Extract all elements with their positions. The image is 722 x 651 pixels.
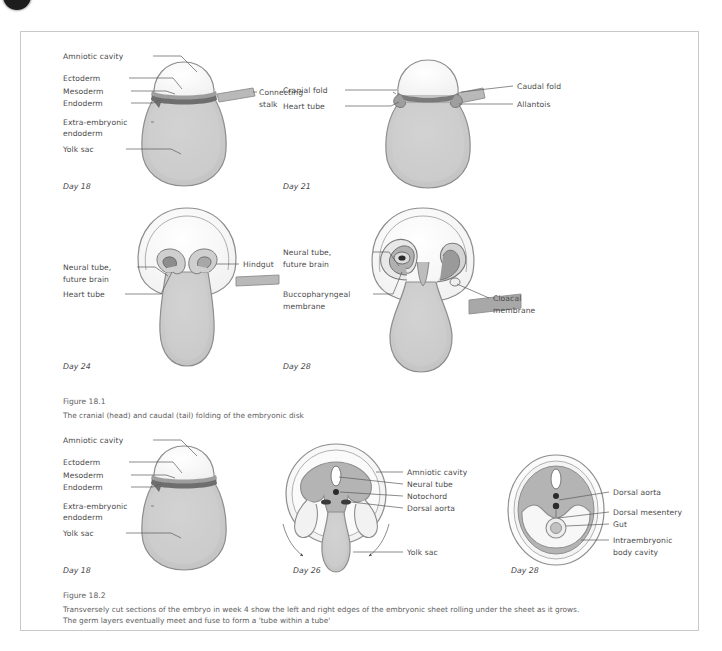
label-dorsal-mesentery-d28t: Dorsal mesentery <box>613 508 683 517</box>
label-heart-tube-d24: Heart tube <box>63 290 105 299</box>
label-extra-embryonic-endoderm2-f2: endoderm <box>63 513 103 522</box>
day-label-day24: Day 24 <box>63 362 91 371</box>
label-neural-tube-line2-d24: future brain <box>63 275 109 284</box>
day-label-day28-sagittal: Day 28 <box>283 362 311 371</box>
caption-title-18-2: Figure 18.2 <box>63 591 106 600</box>
leader-caudal-fold <box>461 86 513 92</box>
caption-line-18-1-1: The cranial (head) and caudal (tail) fol… <box>62 411 304 420</box>
label-neural-tube-line1-d24: Neural tube, <box>63 263 111 272</box>
label-extra-embryonic-endoderm2: endoderm <box>63 129 103 138</box>
label-amniotic-cavity: Amniotic cavity <box>63 52 124 61</box>
gut-lumen-d28t <box>551 523 562 534</box>
day-label-day21: Day 21 <box>283 182 311 191</box>
amniotic-cavity-shape-f2 <box>154 446 214 482</box>
leader-heart-tube-d21 <box>345 102 399 106</box>
neural-tube-lumen-d28 <box>398 255 405 260</box>
caption-line-18-2-2: The germ layers eventually meet and fuse… <box>62 616 330 625</box>
label-allantois: Allantois <box>517 100 550 109</box>
day-label-day28-transverse: Day 28 <box>511 566 539 575</box>
leader-cranial-fold <box>393 92 396 94</box>
label-cloacal-membrane: membrane <box>493 306 536 315</box>
label-notochord-d26: Notochord <box>407 492 447 501</box>
label-mesoderm-f2: Mesoderm <box>63 471 104 480</box>
dorsal-aorta-right-d26 <box>341 499 351 504</box>
caption-line-18-2-1: Transversely cut sections of the embryo … <box>62 605 579 614</box>
yolk-sac-inner-d21 <box>392 104 464 182</box>
label-neural-tube-line1-d28: Neural tube, <box>283 248 331 257</box>
label-mesoderm: Mesoderm <box>63 87 104 96</box>
label-yolk-sac-d26: Yolk sac <box>406 548 438 557</box>
label-amniotic-cavity-d26: Amniotic cavity <box>407 468 468 477</box>
dorsal-aorta-dot-upper-d28t <box>553 493 559 499</box>
label-hindgut: Hindgut <box>243 260 274 269</box>
label-endoderm-f2: Endoderm <box>63 483 103 492</box>
panel-day28-sagittal: Neural tube, future brain Buccopharyngea… <box>283 208 536 372</box>
yolk-sac-inner <box>148 100 220 180</box>
dorsal-aorta-dot-lower-d28t <box>553 503 559 509</box>
label-dorsal-aorta-d28t: Dorsal aorta <box>613 488 661 497</box>
stalk-shape-d24 <box>236 275 279 286</box>
label-neural-tube-line2-d28: future brain <box>283 260 329 269</box>
panel-day28-transverse: Dorsal aorta Dorsal mesentery Gut Intrae… <box>508 455 683 575</box>
yolk-sac-inner-d24 <box>165 274 209 360</box>
caption-title-18-1: Figure 18.1 <box>63 397 106 406</box>
panel-day18-transverse: Amniotic cavity Ectoderm Mesoderm Endode… <box>62 436 226 575</box>
label-cloacal: Cloacal <box>493 294 521 303</box>
label-body-cavity-d28t: body cavity <box>613 548 659 557</box>
embryology-figure-canvas: Amniotic cavity Ectoderm Mesoderm Endode… <box>21 32 698 630</box>
label-ectoderm: Ectoderm <box>63 74 100 83</box>
amniotic-cavity-shape-d21 <box>398 60 458 96</box>
label-gut-d28t: Gut <box>613 520 627 529</box>
neural-tube-shape-d28t <box>551 469 561 489</box>
dorsal-aorta-left-d26 <box>321 499 331 504</box>
amniotic-cavity-shape <box>154 62 214 98</box>
panel-day18-sagittal: Amniotic cavity Ectoderm Mesoderm Endode… <box>62 52 303 191</box>
label-yolk-sac: Yolk sac <box>62 145 94 154</box>
label-extra-embryonic: Extra-embryonic <box>63 118 128 127</box>
label-heart-tube-d21: Heart tube <box>283 102 325 111</box>
neural-tube-shape-d26 <box>331 466 341 486</box>
hindgut-shape-d24 <box>197 257 211 268</box>
heart-tube-shape-d24 <box>163 257 177 268</box>
day-label-day18-sagittal: Day 18 <box>63 182 91 191</box>
yolk-sac-inner-f2 <box>148 484 220 564</box>
panel-day21-sagittal: Cranial fold Heart tube Caudal fold Alla… <box>283 60 561 191</box>
label-neural-tube-d26: Neural tube <box>407 480 453 489</box>
day-label-day26: Day 26 <box>293 566 321 575</box>
label-yolk-sac-f2: Yolk sac <box>62 529 94 538</box>
label-cranial-fold: Cranial fold <box>283 86 328 95</box>
label-buccopharyngeal: Buccopharyngeal <box>283 290 351 299</box>
label-dorsal-aorta-d26: Dorsal aorta <box>407 504 455 513</box>
label-stalk: stalk <box>259 100 278 109</box>
notochord-dot-d26 <box>333 489 339 495</box>
label-buccopharyngeal-membrane: membrane <box>283 302 326 311</box>
label-ectoderm-f2: Ectoderm <box>63 458 100 467</box>
label-caudal-fold: Caudal fold <box>517 82 561 91</box>
corner-bullet-mark <box>3 0 31 10</box>
caption-figure-18-1: Figure 18.1 The cranial (head) and cauda… <box>62 397 304 420</box>
figure-page-frame: Amniotic cavity Ectoderm Mesoderm Endode… <box>20 31 699 631</box>
label-extra-embryonic-f2: Extra-embryonic <box>63 502 128 511</box>
panel-day24-sagittal: Neural tube, future brain Heart tube Hin… <box>63 208 279 371</box>
caption-figure-18-2: Figure 18.2 Transversely cut sections of… <box>62 591 579 625</box>
label-amniotic-cavity-f2: Amniotic cavity <box>63 436 124 445</box>
label-intraembryonic-d28t: Intraembryonic <box>613 536 672 545</box>
label-endoderm: Endoderm <box>63 99 103 108</box>
connecting-stalk-shape <box>217 88 255 102</box>
panel-day26-transverse: Amniotic cavity Neural tube Notochord Do… <box>283 444 468 575</box>
day-label-day18-transverse: Day 18 <box>63 566 91 575</box>
